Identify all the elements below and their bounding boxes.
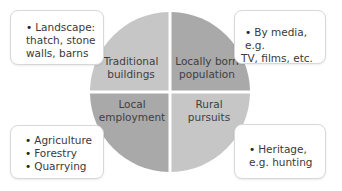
list-item: Quarrying xyxy=(25,160,103,173)
quadrant-label-local-employment: Local employment xyxy=(96,98,168,124)
label-line: pursuits xyxy=(178,111,240,124)
box-line: walls, barns xyxy=(26,47,103,60)
callout-box-landscape: Landscape: thatch, stone walls, barns xyxy=(10,10,104,65)
label-line: buildings xyxy=(98,68,164,81)
label-line: Traditional xyxy=(98,55,164,68)
box-line: e.g. hunting xyxy=(249,156,325,169)
callout-box-media: By media, e.g. TV, films, etc. xyxy=(234,10,326,64)
box-line: By media, e.g. xyxy=(241,26,325,52)
box-line: TV, films, etc. xyxy=(241,52,325,65)
label-line: population xyxy=(172,68,242,81)
label-line: Rural xyxy=(178,98,240,111)
list-item: Forestry xyxy=(25,147,103,160)
label-line: Locally born xyxy=(172,55,242,68)
quadrant-label-rural-pursuits: Rural pursuits xyxy=(178,98,240,124)
callout-box-heritage: Heritage, e.g. hunting xyxy=(234,124,326,179)
label-line: Local xyxy=(96,98,168,111)
quadrant-label-locally-born-population: Locally born population xyxy=(172,55,242,81)
quadrant-label-traditional-buildings: Traditional buildings xyxy=(98,55,164,81)
box-line: Landscape: xyxy=(26,21,103,34)
employment-list: Agriculture Forestry Quarrying xyxy=(25,134,103,173)
callout-box-employment: Agriculture Forestry Quarrying xyxy=(10,125,104,179)
label-line: employment xyxy=(96,111,168,124)
box-line: thatch, stone xyxy=(26,34,103,47)
list-item: Agriculture xyxy=(25,134,103,147)
box-line: Heritage, xyxy=(249,143,325,156)
